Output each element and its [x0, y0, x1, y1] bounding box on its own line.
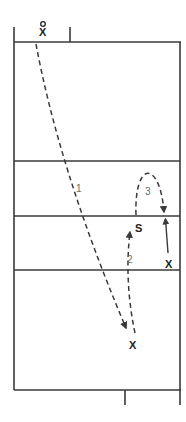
court-diagram: X 1 2 S 3 X X: [0, 0, 186, 422]
court-lines: [14, 27, 181, 405]
top-player-x: X: [39, 26, 47, 38]
right-player-marker: X: [165, 258, 173, 270]
setter-marker: S: [135, 222, 142, 234]
path-4-arrow: [166, 219, 169, 253]
path-3-label: 3: [145, 186, 151, 197]
path-2-label: 2: [127, 254, 133, 265]
bottom-player-marker: X: [129, 339, 137, 351]
top-player-marker: X: [39, 22, 47, 38]
path-2-arrow: [128, 232, 135, 333]
path-1-label: 1: [76, 183, 82, 194]
